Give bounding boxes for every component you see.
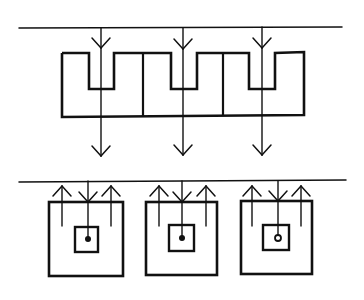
- arrow-wing: [183, 145, 192, 155]
- arrow-wing: [92, 38, 101, 48]
- arrow-wing: [292, 186, 301, 196]
- flow-arrow: [92, 28, 110, 156]
- arrow-wing: [278, 191, 287, 201]
- up-arrow: [53, 186, 71, 226]
- flow-arrow: [253, 27, 271, 155]
- cell: [241, 181, 312, 274]
- arrow-wing: [183, 39, 192, 49]
- arrow-wing: [111, 186, 120, 196]
- arrow-wing: [101, 38, 110, 48]
- surface-line: [19, 27, 342, 28]
- arrow-wing: [92, 146, 101, 156]
- up-arrow: [102, 186, 120, 226]
- cell: [146, 181, 217, 275]
- arrow-wing: [262, 38, 271, 48]
- up-arrow: [292, 186, 310, 226]
- arrow-wing: [102, 186, 111, 196]
- arrow-wing: [79, 192, 88, 202]
- bottom-panel: [19, 180, 346, 276]
- arrow-wing: [150, 186, 159, 196]
- flow-arrow: [174, 28, 192, 155]
- up-arrow: [150, 186, 168, 226]
- arrow-wing: [174, 39, 183, 49]
- arrow-wing: [53, 186, 62, 196]
- diagram-canvas: [0, 0, 364, 300]
- arrow-wing: [252, 186, 261, 196]
- arrow-wing: [62, 186, 71, 196]
- arrow-wing: [206, 186, 215, 196]
- up-arrow: [243, 186, 261, 226]
- arrow-wing: [253, 145, 262, 155]
- dot: [179, 235, 185, 241]
- arrow-wing: [182, 192, 191, 202]
- arrow-wing: [197, 186, 206, 196]
- dot: [85, 236, 91, 242]
- arrow-wing: [269, 191, 278, 201]
- arrow-wing: [301, 186, 310, 196]
- arrow-wing: [262, 145, 271, 155]
- arrow-wing: [253, 38, 262, 48]
- top-panel: [19, 27, 342, 156]
- dot-ring: [275, 235, 281, 241]
- arrow-wing: [88, 192, 97, 202]
- up-arrow: [197, 186, 215, 226]
- arrow-wing: [159, 186, 168, 196]
- arrow-wing: [101, 146, 110, 156]
- arrow-wing: [243, 186, 252, 196]
- arrow-wing: [174, 145, 183, 155]
- cell: [49, 181, 123, 276]
- arrow-wing: [173, 192, 182, 202]
